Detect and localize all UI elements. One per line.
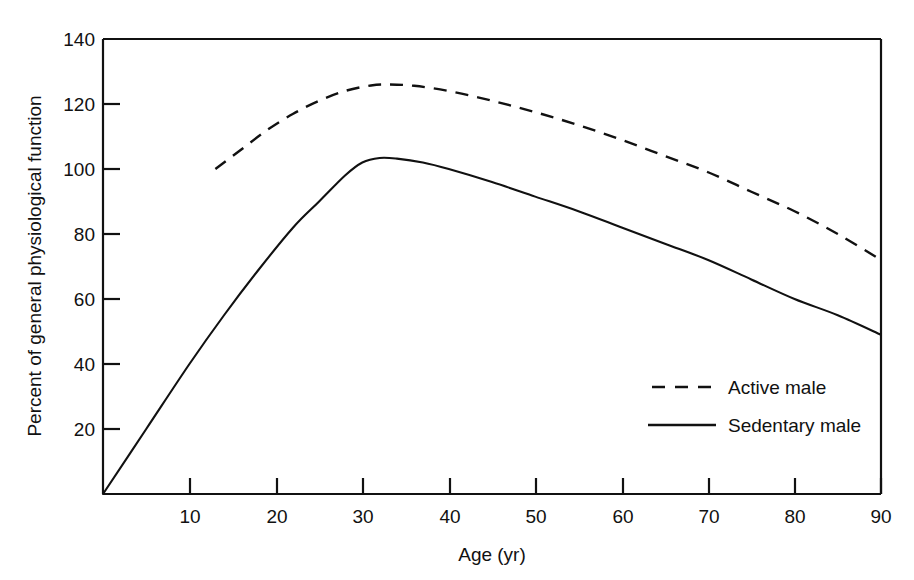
- chart-legend: Active male Sedentary male: [648, 377, 861, 436]
- x-tick-labels: 10 20 30 40 50 60 70 80 90: [179, 506, 891, 527]
- y-tick-label: 80: [74, 224, 95, 245]
- legend-label-active-male: Active male: [728, 377, 826, 398]
- series-line-sedentary-male: [103, 158, 881, 494]
- x-tick-label: 30: [352, 506, 373, 527]
- y-tick-label: 140: [63, 29, 95, 50]
- chart-figure: 140 120 100 80 60 40 20 10 20 30 40 50 6…: [0, 0, 914, 580]
- y-axis-ticks: [103, 104, 120, 429]
- y-tick-label: 100: [63, 159, 95, 180]
- chart-canvas: 140 120 100 80 60 40 20 10 20 30 40 50 6…: [0, 0, 914, 580]
- y-tick-labels: 140 120 100 80 60 40 20: [63, 29, 95, 440]
- series-line-active-male: [215, 84, 881, 260]
- x-tick-label: 50: [525, 506, 546, 527]
- y-tick-label: 120: [63, 94, 95, 115]
- x-axis-title: Age (yr): [458, 544, 526, 565]
- x-tick-label: 60: [612, 506, 633, 527]
- y-tick-label: 40: [74, 354, 95, 375]
- legend-label-sedentary-male: Sedentary male: [728, 415, 861, 436]
- x-tick-label: 80: [784, 506, 805, 527]
- y-tick-label: 20: [74, 419, 95, 440]
- x-tick-label: 20: [266, 506, 287, 527]
- x-tick-label: 70: [698, 506, 719, 527]
- x-tick-label: 10: [179, 506, 200, 527]
- x-tick-label: 40: [439, 506, 460, 527]
- y-axis-title: Percent of general physiological functio…: [24, 95, 45, 436]
- y-tick-label: 60: [74, 289, 95, 310]
- x-tick-label: 90: [870, 506, 891, 527]
- x-axis-ticks: [190, 478, 881, 494]
